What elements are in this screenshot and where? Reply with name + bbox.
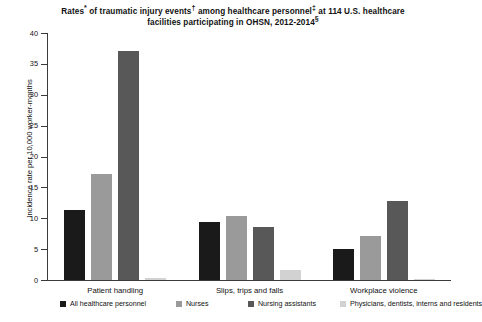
y-axis-tick — [41, 218, 48, 219]
y-axis-tick-label-text: 5 — [8, 245, 38, 254]
title-footnote-marker: † — [192, 4, 196, 11]
title-footnote-marker: § — [315, 15, 319, 22]
legend-label: Nursing assistants — [258, 300, 316, 308]
y-axis-tick — [41, 64, 48, 65]
legend-label: Nurses — [186, 300, 208, 308]
title-footnote-marker: * — [84, 4, 87, 11]
y-axis-tick-label-text: 40 — [8, 29, 38, 38]
bar — [253, 227, 274, 280]
y-axis-tick — [41, 187, 48, 188]
bar — [226, 216, 247, 280]
legend-item[interactable]: All healthcare personnel — [60, 300, 146, 308]
y-axis-tick-label-text: 25 — [8, 121, 38, 130]
legend-swatch-icon — [248, 301, 254, 307]
legend-item[interactable]: Nursing assistants — [248, 300, 316, 308]
y-axis-tick-label: 15 — [6, 183, 38, 192]
bars-layer — [48, 28, 451, 281]
legend-swatch-icon — [60, 301, 66, 307]
y-axis-tick-label: 25 — [6, 121, 38, 130]
y-axis-tick-label: 5 — [6, 245, 38, 254]
legend-swatch-icon — [340, 301, 346, 307]
y-axis-tick-label-text: 10 — [8, 214, 38, 223]
y-axis-tick-label-text: 0 — [8, 276, 38, 285]
y-axis-tick-label-text: 35 — [8, 59, 38, 68]
y-axis-tick-label-text: 30 — [8, 90, 38, 99]
bar — [333, 249, 354, 280]
y-axis-tick — [41, 33, 48, 34]
y-axis-tick-label: 30 — [6, 90, 38, 99]
bar — [280, 270, 301, 280]
title-footnote-marker: ‡ — [312, 4, 316, 11]
bar — [387, 201, 408, 280]
x-axis-category-label: Workplace violence — [317, 286, 451, 295]
bar — [91, 174, 112, 280]
y-axis-tick — [41, 95, 48, 96]
legend-swatch-icon — [176, 301, 182, 307]
y-axis-tick-label-text: 20 — [8, 152, 38, 161]
chart-title-line-2: facilities participating in OHSN, 2012-2… — [0, 17, 466, 28]
bar — [360, 236, 381, 280]
bar — [199, 222, 220, 280]
y-axis-tick-label-text: 15 — [8, 183, 38, 192]
y-axis-tick-label: 10 — [6, 214, 38, 223]
y-axis-tick — [41, 157, 48, 158]
y-axis-tick-label: 0 — [6, 276, 38, 285]
y-axis-tick-label: 40 — [6, 29, 38, 38]
y-axis-tick — [41, 126, 48, 127]
bar — [118, 51, 139, 280]
y-axis-tick-label: 35 — [6, 59, 38, 68]
bar — [145, 278, 166, 280]
legend-item[interactable]: Physicians, dentists, interns and reside… — [340, 300, 482, 308]
y-axis-tick — [41, 280, 48, 281]
bar — [414, 279, 435, 280]
x-axis-category-label: Slips, trips and falls — [182, 286, 316, 295]
legend-label: All healthcare personnel — [70, 300, 146, 308]
chart-legend: All healthcare personnelNursesNursing as… — [0, 300, 466, 316]
chart-title: Rates* of traumatic injury events† among… — [0, 6, 466, 28]
plot-area: Incidence rate per 10,000 worker-months … — [0, 28, 466, 290]
y-axis-tick — [41, 249, 48, 250]
legend-label: Physicians, dentists, interns and reside… — [350, 300, 482, 308]
legend-item[interactable]: Nurses — [176, 300, 208, 308]
x-axis-category-label: Patient handling — [48, 286, 182, 295]
y-axis-tick-label: 20 — [6, 152, 38, 161]
chart-title-line-1: Rates* of traumatic injury events† among… — [0, 6, 466, 17]
bar — [64, 210, 85, 280]
